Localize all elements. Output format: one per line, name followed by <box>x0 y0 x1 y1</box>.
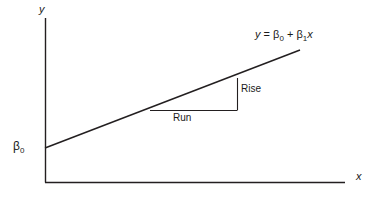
beta-symbol: β <box>13 139 20 153</box>
y-axis-label: y <box>39 4 45 15</box>
rise-label: Rise <box>241 84 261 94</box>
equation-plus: + <box>287 28 293 40</box>
equation-equals: = <box>264 28 270 40</box>
y-intercept-label: β0 <box>13 140 24 155</box>
x-axis-label: x <box>356 171 362 182</box>
run-label: Run <box>173 113 191 123</box>
equation-label: y = β0 + β1x <box>255 29 313 43</box>
equation-lhs: y <box>255 28 261 40</box>
beta-subscript: 0 <box>20 146 24 155</box>
equation-beta0-subscript: 0 <box>279 34 283 43</box>
diagram-canvas <box>0 0 379 198</box>
linear-regression-diagram: y x β0 y = β0 + β1x Rise Run <box>0 0 379 198</box>
regression-line <box>45 50 300 148</box>
equation-x-variable: x <box>307 28 313 40</box>
